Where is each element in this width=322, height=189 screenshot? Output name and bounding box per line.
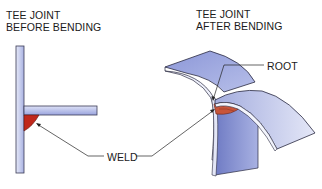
weld-leader-left [37, 124, 104, 156]
weld-bead [24, 115, 39, 131]
tee-joint-after-bending [165, 51, 315, 176]
diagram-canvas [0, 0, 322, 189]
horizontal-plate [24, 106, 97, 115]
vertical-plate [16, 46, 24, 173]
weld-leader-right [136, 110, 214, 156]
bent-plate-back-top [165, 51, 255, 92]
